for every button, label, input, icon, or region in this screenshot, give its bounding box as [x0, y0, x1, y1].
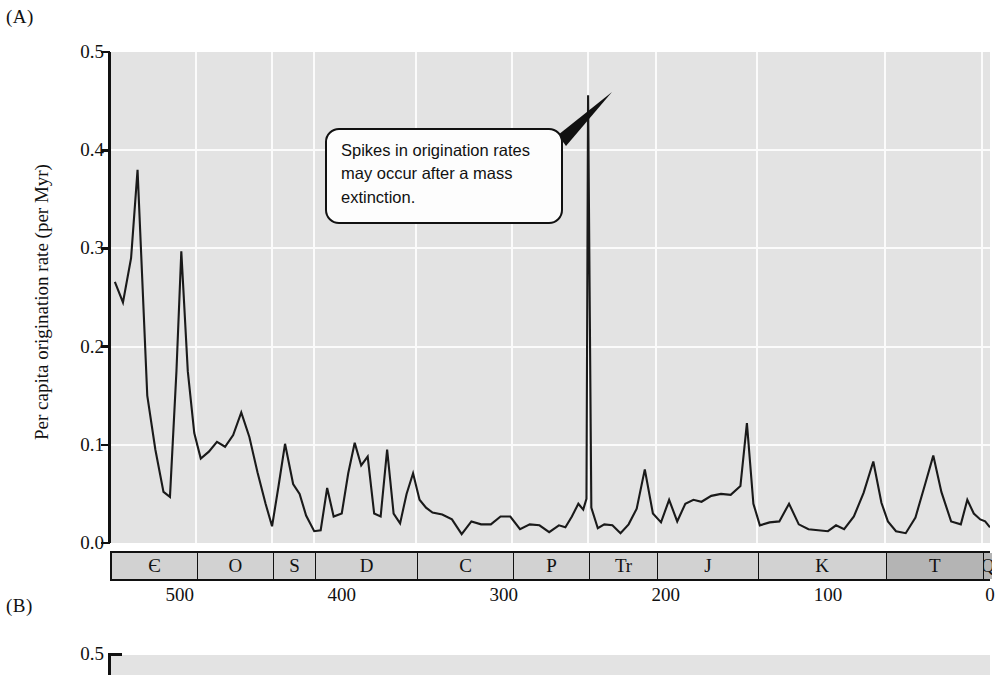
- figure-container: (A) Per capita origination rate (per Myr…: [0, 0, 1008, 675]
- callout-annotation: Spikes in origination rates may occur af…: [325, 128, 563, 224]
- callout-leader-line: [0, 0, 1008, 675]
